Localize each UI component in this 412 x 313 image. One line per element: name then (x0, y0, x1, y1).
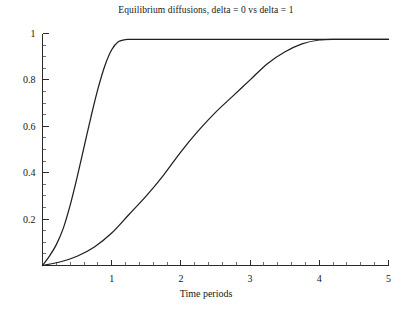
ticks-group (43, 34, 389, 266)
y-tick-label: 0.6 (23, 121, 36, 132)
y-tick-label: 1 (31, 28, 36, 39)
data-curve (43, 39, 389, 265)
x-tick-label: 2 (178, 273, 183, 284)
y-tick-label: 0.8 (23, 74, 36, 85)
plot-area: 123450.20.40.60.81 (0, 0, 412, 313)
y-tick-label: 0.4 (23, 167, 36, 178)
chart-container: Equilibrium diffusions, delta = 0 vs del… (0, 0, 412, 313)
x-tick-label: 1 (109, 273, 114, 284)
tick-labels-group: 123450.20.40.60.81 (23, 28, 391, 284)
x-tick-label: 3 (248, 273, 253, 284)
y-tick-label: 0.2 (23, 214, 36, 225)
data-curves-group (43, 39, 389, 265)
x-tick-label: 4 (317, 273, 322, 284)
data-curve (43, 39, 389, 265)
x-axis-label: Time periods (0, 288, 412, 299)
axes-group (43, 34, 389, 266)
x-tick-label: 5 (386, 273, 391, 284)
